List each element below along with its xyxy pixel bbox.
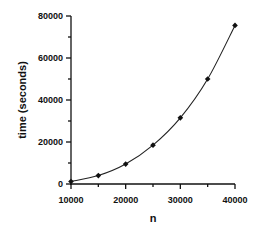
- fit-curve: [71, 25, 235, 181]
- x-tick-label: 40000: [222, 195, 247, 205]
- y-tick-label: 0: [58, 179, 63, 189]
- x-axis-label: n: [150, 212, 157, 224]
- axes: 0200004000060000800001000020000300004000…: [38, 11, 248, 205]
- data-point-marker: [205, 76, 211, 82]
- y-tick-label: 80000: [38, 11, 63, 21]
- y-tick-label: 40000: [38, 95, 63, 105]
- y-tick-label: 20000: [38, 137, 63, 147]
- data-point-marker: [232, 23, 238, 29]
- data-point-marker: [96, 173, 102, 179]
- data-points: [68, 23, 238, 185]
- x-tick-label: 10000: [58, 195, 83, 205]
- x-tick-label: 30000: [168, 195, 193, 205]
- y-axis-label: time (seconds): [16, 61, 28, 139]
- x-tick-label: 20000: [113, 195, 138, 205]
- y-tick-label: 60000: [38, 53, 63, 63]
- data-point-marker: [123, 161, 129, 167]
- chart: 0200004000060000800001000020000300004000…: [0, 0, 258, 233]
